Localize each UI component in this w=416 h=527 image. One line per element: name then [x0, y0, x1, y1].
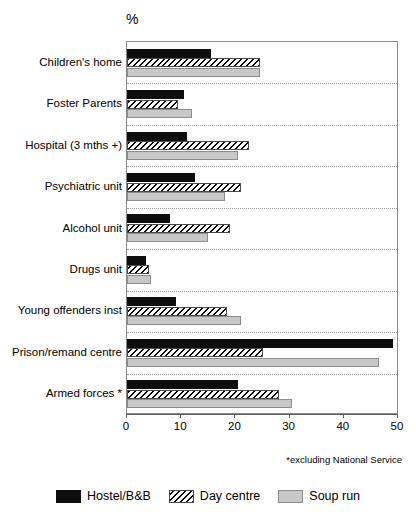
bar-soup-run	[127, 316, 241, 325]
category-label: Children's home	[0, 56, 122, 68]
bar-day-centre	[127, 348, 263, 357]
bar-group	[127, 249, 397, 290]
footnote: *excluding National Service	[286, 454, 402, 465]
category-label: Drugs unit	[0, 263, 122, 275]
category-label: Young offenders inst	[0, 304, 122, 316]
bar-hostel-b-b	[127, 297, 176, 306]
bar-group	[127, 374, 397, 415]
x-tick-label: 20	[219, 420, 249, 433]
bar-day-centre	[127, 224, 230, 233]
category-label: Prison/remand centre	[0, 346, 122, 358]
x-tick-label: 0	[111, 420, 141, 433]
bar-group	[127, 291, 397, 332]
bar-group	[127, 42, 397, 83]
legend-label: Hostel/B&B	[87, 489, 151, 503]
bar-day-centre	[127, 58, 260, 67]
x-tick-label: 40	[328, 420, 358, 433]
legend-label: Day centre	[200, 489, 260, 503]
x-axis-line	[126, 414, 398, 415]
bar-day-centre	[127, 390, 279, 399]
x-tick	[289, 414, 290, 418]
plot-area	[126, 41, 398, 414]
bar-hostel-b-b	[127, 256, 146, 265]
bar-hostel-b-b	[127, 90, 184, 99]
legend-swatch	[56, 490, 81, 503]
bar-day-centre	[127, 100, 178, 109]
bar-chart: % Children's homeFoster ParentsHospital …	[0, 0, 416, 527]
category-label: Psychiatric unit	[0, 180, 122, 192]
y-axis-unit-label: %	[126, 12, 138, 26]
x-tick-label: 50	[382, 420, 412, 433]
bar-day-centre	[127, 307, 227, 316]
bar-soup-run	[127, 358, 379, 367]
bar-hostel-b-b	[127, 214, 170, 223]
bar-day-centre	[127, 141, 249, 150]
bar-hostel-b-b	[127, 132, 187, 141]
category-label: Armed forces *	[0, 387, 122, 399]
bar-hostel-b-b	[127, 49, 211, 58]
category-label: Hospital (3 mths +)	[0, 139, 122, 151]
bar-soup-run	[127, 275, 151, 284]
legend: Hostel/B&BDay centreSoup run	[0, 489, 416, 503]
bar-soup-run	[127, 233, 208, 242]
bar-group	[127, 166, 397, 207]
bar-group	[127, 332, 397, 373]
bar-soup-run	[127, 151, 238, 160]
bar-hostel-b-b	[127, 173, 195, 182]
x-tick	[180, 414, 181, 418]
bar-hostel-b-b	[127, 339, 393, 348]
legend-label: Soup run	[309, 489, 360, 503]
x-tick	[234, 414, 235, 418]
bar-soup-run	[127, 399, 292, 408]
legend-swatch	[169, 490, 194, 503]
legend-item: Soup run	[278, 489, 360, 503]
bar-soup-run	[127, 192, 225, 201]
x-tick	[126, 414, 127, 418]
bar-soup-run	[127, 68, 260, 77]
category-label: Alcohol unit	[0, 222, 122, 234]
bar-day-centre	[127, 183, 241, 192]
bar-group	[127, 125, 397, 166]
category-label: Foster Parents	[0, 97, 122, 109]
legend-item: Hostel/B&B	[56, 489, 151, 503]
bar-day-centre	[127, 265, 149, 274]
bar-soup-run	[127, 109, 192, 118]
bar-hostel-b-b	[127, 380, 238, 389]
legend-item: Day centre	[169, 489, 260, 503]
x-tick	[343, 414, 344, 418]
bar-group	[127, 208, 397, 249]
x-tick-label: 30	[274, 420, 304, 433]
x-tick-label: 10	[165, 420, 195, 433]
bar-group	[127, 83, 397, 124]
x-tick	[397, 414, 398, 418]
legend-swatch	[278, 490, 303, 503]
